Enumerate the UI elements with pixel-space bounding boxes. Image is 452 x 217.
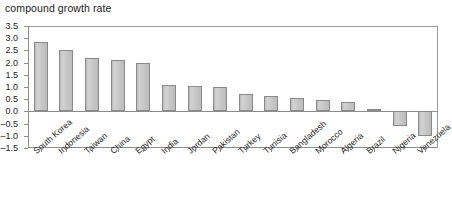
x-tick-mark (92, 148, 93, 152)
bar (85, 58, 99, 112)
x-tick-mark (143, 148, 144, 152)
bar (367, 109, 381, 111)
bar (188, 86, 202, 112)
x-tick-mark (169, 148, 170, 152)
y-tick-label: 3.0 (5, 34, 18, 43)
x-tick-mark (195, 148, 196, 152)
bar (59, 50, 73, 111)
x-axis: South KoreaIndonesiaTaiwanChinaEgyptIndi… (0, 149, 444, 217)
bar (418, 111, 432, 135)
y-tick-label: 2.0 (5, 58, 18, 67)
x-tick-mark (271, 148, 272, 152)
x-tick-mark (246, 148, 247, 152)
bar (393, 111, 407, 126)
x-tick-mark (118, 148, 119, 152)
x-tick-mark (297, 148, 298, 152)
x-tick-mark (323, 148, 324, 152)
x-tick-mark (348, 148, 349, 152)
y-tick-label: –1.0 (0, 131, 18, 140)
y-tick-label: 0.0 (5, 107, 18, 116)
x-tick-mark (66, 148, 67, 152)
bar (136, 63, 150, 112)
bar (316, 100, 330, 111)
y-tick-label: –0.5 (0, 119, 18, 128)
y-tick-label: 1.5 (5, 70, 18, 79)
x-tick-mark (41, 148, 42, 152)
y-tick-label: 0.5 (5, 95, 18, 104)
y-tick-label: 3.5 (5, 22, 18, 31)
bar (34, 42, 48, 112)
x-tick-mark (425, 148, 426, 152)
x-tick-mark (374, 148, 375, 152)
bar (162, 85, 176, 112)
x-tick-mark (400, 148, 401, 152)
y-axis: 3.53.02.52.01.51.00.50.0–0.5–1.0–1.5 (0, 26, 24, 148)
y-tick-label: 1.0 (5, 83, 18, 92)
bar (213, 87, 227, 111)
bar (290, 98, 304, 111)
bar (239, 94, 253, 111)
bar (111, 60, 125, 111)
bar (264, 96, 278, 112)
bar (341, 102, 355, 112)
chart-title: compound growth rate (5, 2, 111, 15)
x-tick-mark (220, 148, 221, 152)
y-tick-label: 2.5 (5, 46, 18, 55)
